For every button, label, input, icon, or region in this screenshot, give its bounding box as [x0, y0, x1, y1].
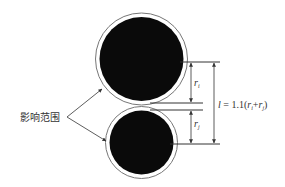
top-particle: [96, 13, 188, 105]
pointer-arrows: [67, 89, 106, 141]
top-particle-body: [100, 17, 184, 101]
distance-formula: l = 1.1(ri+rj): [218, 99, 267, 111]
ri-label: ri: [194, 77, 200, 89]
bottom-particle: [106, 107, 178, 179]
pointer-arrow-bottom: [67, 117, 106, 141]
pointer-arrow-top: [67, 89, 102, 117]
bottom-particle-body: [110, 111, 174, 175]
rj-label: rj: [194, 118, 200, 130]
influence-range-label: 影响范围: [20, 111, 60, 123]
influence-range-diagram: ri rj l = 1.1(ri+rj) 影响范围: [0, 0, 285, 187]
